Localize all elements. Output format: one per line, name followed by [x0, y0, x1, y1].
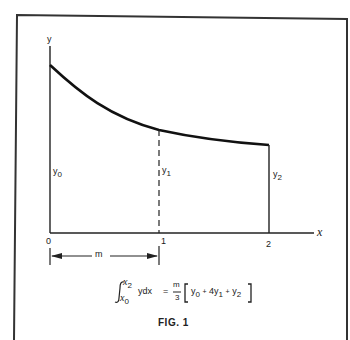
- ordinate-y1-base: y: [162, 165, 167, 175]
- ordinate-label-y1: y1: [162, 166, 171, 175]
- ordinate-y0-sub: 0: [58, 170, 62, 179]
- frame-border: [14, 15, 347, 340]
- x-axis-label: x: [317, 226, 322, 238]
- bracket-left-icon: [185, 284, 188, 302]
- arrow-left-icon: [51, 253, 62, 259]
- integrand: ydx: [138, 287, 152, 296]
- tick-2: 2: [266, 240, 271, 249]
- term-y2-sub: 2: [237, 290, 241, 299]
- plus-sign-2: +: [226, 288, 230, 295]
- figure-caption: FIG. 1: [158, 318, 189, 328]
- lower-limit-sub: 0: [124, 297, 128, 306]
- ordinate-y2-base: y: [273, 169, 278, 179]
- term-y0-sub: 0: [196, 290, 200, 299]
- formula-equals: =: [163, 287, 168, 296]
- interval-label: m: [95, 250, 103, 259]
- arrow-right-icon: [147, 253, 158, 259]
- ordinate-y0-base: y: [53, 166, 58, 176]
- term-y2: y: [232, 286, 237, 296]
- ordinate-label-y0: y0: [53, 167, 62, 176]
- term-y0: y: [191, 286, 196, 296]
- fraction-numerator: m: [173, 281, 180, 289]
- tick-1: 1: [161, 237, 166, 246]
- integral-lower-limit: x0: [120, 293, 129, 303]
- integral-upper-limit: x2: [123, 277, 132, 287]
- term-4y1: 4y: [209, 286, 219, 296]
- fraction-denominator: 3: [175, 294, 179, 302]
- bracket-contents: y0 + 4y1 + y2: [191, 287, 241, 296]
- ordinate-y2-sub: 2: [278, 173, 282, 182]
- integrand-dx: dx: [143, 286, 153, 296]
- y-axis-label: y: [47, 35, 52, 44]
- term-y1-sub: 1: [219, 290, 223, 299]
- ordinate-label-y2: y2: [273, 170, 282, 179]
- tick-0: 0: [46, 237, 51, 246]
- bracket-right-icon: [248, 284, 251, 302]
- upper-limit-sub: 2: [127, 281, 131, 290]
- plus-sign-1: +: [202, 288, 206, 295]
- ordinate-y1-sub: 1: [167, 169, 171, 178]
